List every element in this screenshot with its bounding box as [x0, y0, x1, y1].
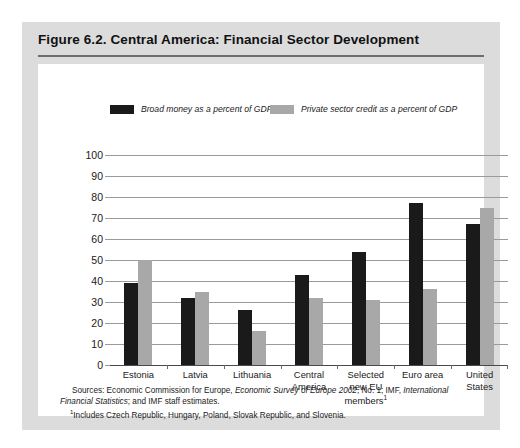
y-axis-label: 40 — [91, 275, 103, 287]
legend-swatch-icon — [110, 105, 134, 114]
legend-entry-1: Private sector credit as a percent of GD… — [270, 104, 457, 114]
bar-group — [224, 310, 281, 365]
bar — [409, 203, 423, 365]
y-axis-label: 100 — [85, 149, 103, 161]
bar-group — [110, 260, 167, 365]
y-axis-label: 20 — [91, 317, 103, 329]
footnote-text: Includes Czech Republic, Hungary, Poland… — [73, 411, 345, 420]
figure-notes: Sources: Economic Commission for Europe,… — [60, 386, 470, 422]
bar — [466, 224, 480, 365]
legend-label: Private sector credit as a percent of GD… — [301, 104, 457, 114]
figure-title: Figure 6.2. Central America: Financial S… — [38, 32, 419, 47]
y-axis-label: 80 — [91, 191, 103, 203]
bar — [124, 283, 138, 365]
legend-label: Broad money as a percent of GDP — [141, 104, 272, 114]
bar — [295, 275, 309, 365]
gridline — [110, 155, 508, 156]
title-divider — [38, 55, 484, 57]
sources-mid: , No. 1; IMF, — [357, 386, 403, 395]
y-axis-label: 50 — [91, 254, 103, 266]
gridline — [110, 197, 508, 198]
bar — [423, 289, 437, 365]
y-axis-label: 70 — [91, 212, 103, 224]
bar — [195, 292, 209, 366]
y-axis-label: 30 — [91, 296, 103, 308]
bar — [309, 298, 323, 365]
y-axis-label: 0 — [97, 359, 103, 371]
x-axis-label-line: United — [445, 369, 514, 381]
bar-group — [451, 208, 508, 366]
legend-entry-0: Broad money as a percent of GDP — [110, 104, 272, 114]
chart-legend: Broad money as a percent of GDPPrivate s… — [38, 104, 484, 120]
bar-group — [394, 203, 451, 365]
bar — [366, 300, 380, 365]
legend-swatch-icon — [270, 105, 294, 114]
y-axis-label: 90 — [91, 170, 103, 182]
bar-group — [281, 275, 338, 365]
x-axis-tick — [507, 365, 508, 369]
sources-suffix: ; and IMF staff estimates. — [128, 397, 220, 406]
y-axis-tick — [105, 239, 110, 240]
bar — [238, 310, 252, 365]
sources-italic-1: Economic Survey of Europe 2002 — [235, 386, 357, 395]
y-axis-tick — [105, 218, 110, 219]
chart-card: Broad money as a percent of GDPPrivate s… — [38, 64, 484, 416]
y-axis-label: 60 — [91, 233, 103, 245]
y-axis-tick — [105, 176, 110, 177]
sources-prefix: Sources: Economic Commission for Europe, — [72, 386, 235, 395]
footnote-line: 1Includes Czech Republic, Hungary, Polan… — [60, 407, 470, 421]
gridline — [110, 176, 508, 177]
bar — [252, 331, 266, 365]
x-axis-line — [110, 365, 508, 366]
sources-line: Sources: Economic Commission for Europe,… — [60, 386, 470, 407]
y-axis-tick — [105, 197, 110, 198]
y-axis-label: 10 — [91, 338, 103, 350]
bar-group — [167, 292, 224, 366]
figure-panel: Figure 6.2. Central America: Financial S… — [22, 22, 500, 430]
bar — [352, 252, 366, 365]
y-axis-tick — [105, 155, 110, 156]
bar — [480, 208, 494, 366]
bar — [181, 298, 195, 365]
plot-area: 0102030405060708090100 EstoniaLatviaLith… — [110, 155, 508, 365]
bar — [138, 260, 152, 365]
bar-group — [337, 252, 394, 365]
